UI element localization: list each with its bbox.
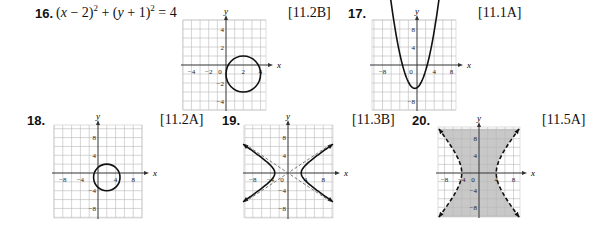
x-tick-label: 8 [512, 176, 516, 184]
x-tick-label: 2 [242, 68, 246, 76]
graph-19: xy−8−404884−4−8 [243, 111, 348, 219]
y-tick-label: −4 [279, 187, 287, 195]
y-tick-label: −4 [89, 187, 97, 195]
x-axis-label: x [343, 168, 348, 178]
x-tick-label: 8 [131, 176, 135, 184]
graph-16: xy−4−202442−2−4 [181, 6, 281, 111]
x-axis-label: x [466, 60, 471, 70]
y-tick-label: 4 [221, 26, 225, 34]
y-tick-label: −8 [279, 205, 287, 213]
y-tick-label: −2 [217, 80, 225, 88]
graph-18: xy−8−44884−4−8 [52, 111, 157, 219]
y-tick-label: 2 [221, 44, 225, 52]
x-axis-arrow-icon [268, 63, 273, 67]
y-axis-label: y [285, 111, 290, 121]
x-tick-label: −8 [249, 176, 257, 184]
y-axis-label: y [223, 6, 228, 16]
y-axis-label: y [476, 113, 481, 123]
x-tick-label: −8 [379, 68, 387, 76]
graph-20: xy−8−404884−4−8 [436, 113, 535, 218]
x-tick-label: 0 [409, 68, 413, 76]
x-tick-label: −2 [205, 68, 213, 76]
y-tick-label: 4 [412, 44, 416, 52]
x-axis-arrow-icon [144, 171, 149, 175]
x-tick-label: −8 [59, 176, 67, 184]
x-tick-label: 4 [432, 68, 436, 76]
x-axis-label: x [152, 168, 157, 178]
y-tick-label: −4 [217, 98, 225, 106]
y-tick-label: 8 [93, 134, 97, 142]
x-axis-arrow-icon [458, 63, 463, 67]
x-axis-label: x [276, 60, 281, 70]
x-axis-label: x [530, 168, 535, 178]
y-tick-label: −8 [470, 204, 478, 212]
y-axis-label: y [95, 111, 100, 121]
y-tick-label: 8 [412, 26, 416, 34]
y-tick-label: −8 [89, 205, 97, 213]
y-tick-label: 4 [474, 152, 478, 160]
x-tick-label: 8 [321, 176, 325, 184]
y-tick-label: 4 [283, 152, 287, 160]
y-tick-label: −4 [470, 187, 478, 195]
y-tick-label: −8 [408, 98, 416, 106]
y-tick-label: 4 [93, 152, 97, 160]
x-tick-label: 0 [280, 176, 284, 184]
x-tick-label: 0 [471, 176, 475, 184]
x-tick-label: −8 [441, 176, 449, 184]
x-axis-arrow-icon [335, 171, 340, 175]
y-tick-label: 8 [283, 134, 287, 142]
graphs-canvas: xy−4−202442−2−4xy−804884−8xy−8−44884−4−8… [0, 0, 616, 228]
graph-17: xy−804884−8 [370, 0, 471, 111]
x-tick-label: 8 [450, 68, 454, 76]
x-tick-label: 0 [218, 68, 222, 76]
x-axis-arrow-icon [522, 171, 527, 175]
y-axis-label: y [414, 6, 419, 16]
x-tick-label: −4 [77, 176, 85, 184]
x-tick-label: 4 [114, 176, 118, 184]
x-tick-label: −4 [188, 68, 196, 76]
y-tick-label: 8 [474, 135, 478, 143]
